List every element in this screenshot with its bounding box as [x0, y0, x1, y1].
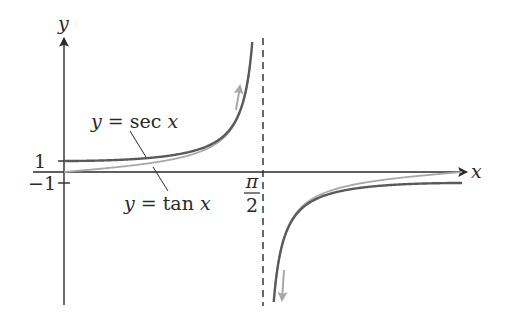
- pi-over-2-tick-label: π 2: [244, 170, 260, 216]
- sec-annotation: y = sec x: [90, 110, 178, 132]
- y-tick-label-1: 1: [34, 150, 46, 172]
- down-arrow-icon: [282, 270, 284, 300]
- y-axis-label: y: [57, 12, 69, 34]
- sec-curve-right: [274, 183, 462, 302]
- y-tick-label-neg1: −1: [28, 172, 56, 194]
- up-arrow-icon: [236, 86, 240, 110]
- x-axis-label: x: [471, 160, 482, 182]
- tan-curve-right: [275, 172, 462, 287]
- tan-annotation: y = tan x: [123, 192, 211, 214]
- tan-leader-line: [153, 167, 168, 191]
- sec-curve-left: [64, 42, 252, 161]
- sec-leader-line: [130, 131, 146, 157]
- pi-numerator: π: [245, 170, 259, 192]
- sec-tan-chart: y x 1 −1 π 2 y = sec x y = tan x: [0, 0, 507, 324]
- pi-denominator: 2: [246, 194, 258, 216]
